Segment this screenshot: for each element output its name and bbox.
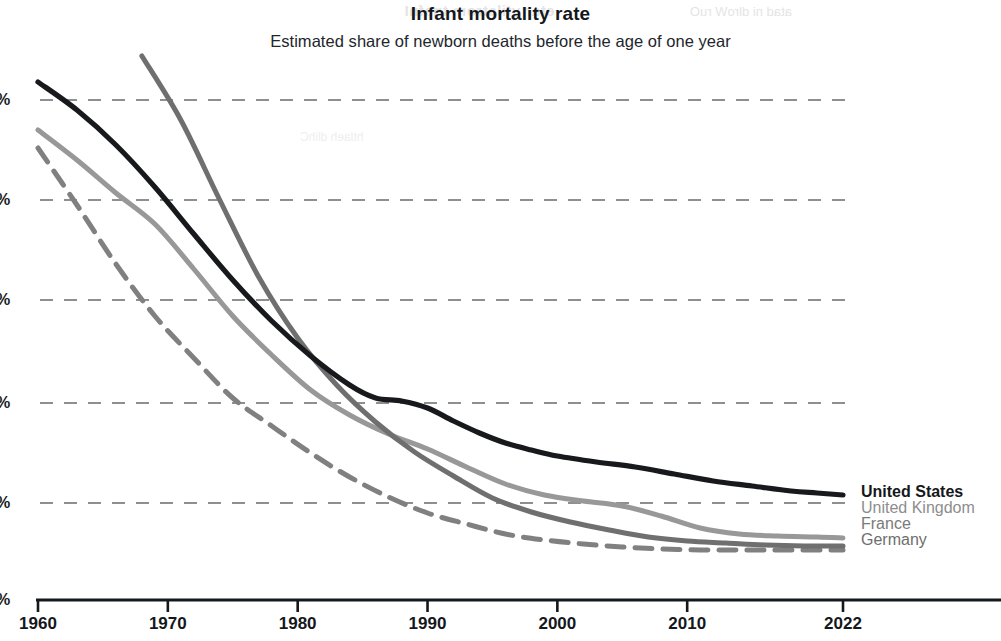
plot-area: %%%%%% 1960197019801990200020102022 <box>0 0 1001 641</box>
y-axis-label: % <box>0 592 10 608</box>
x-axis-label: 2010 <box>668 614 706 634</box>
y-axis-label: % <box>0 92 10 108</box>
chart-canvas <box>0 0 1001 641</box>
series-lines <box>38 56 843 550</box>
x-axis-line-group <box>36 600 1001 612</box>
y-axis-label: % <box>0 495 10 511</box>
infant-mortality-chart: etar ytilatrom tnafnI atad ni dlroW ruO … <box>0 0 1001 641</box>
x-axis-label: 1960 <box>19 614 57 634</box>
x-axis-label: 2000 <box>538 614 576 634</box>
series-line-france <box>38 148 843 550</box>
legend-item-germany[interactable]: Germany <box>861 532 975 548</box>
x-axis-label: 2022 <box>824 614 862 634</box>
legend-label-united-kingdom: United Kingdom <box>861 499 975 516</box>
y-axis-label: % <box>0 192 10 208</box>
series-line-united-states <box>38 82 843 495</box>
x-axis-label: 1990 <box>409 614 447 634</box>
y-axis-label: % <box>0 292 10 308</box>
legend-label-germany: Germany <box>861 531 927 548</box>
x-axis-label: 1970 <box>149 614 187 634</box>
legend-label-france: France <box>861 515 911 532</box>
legend-item-united-kingdom[interactable]: United Kingdom <box>861 500 975 516</box>
legend-item-france[interactable]: France <box>861 516 975 532</box>
gridlines <box>40 100 852 503</box>
y-axis-label: % <box>0 395 10 411</box>
legend-item-united-states[interactable]: United States <box>861 484 975 500</box>
x-axis-label: 1980 <box>279 614 317 634</box>
chart-legend: United States United Kingdom France Germ… <box>861 484 975 548</box>
legend-label-united-states: United States <box>861 483 963 500</box>
